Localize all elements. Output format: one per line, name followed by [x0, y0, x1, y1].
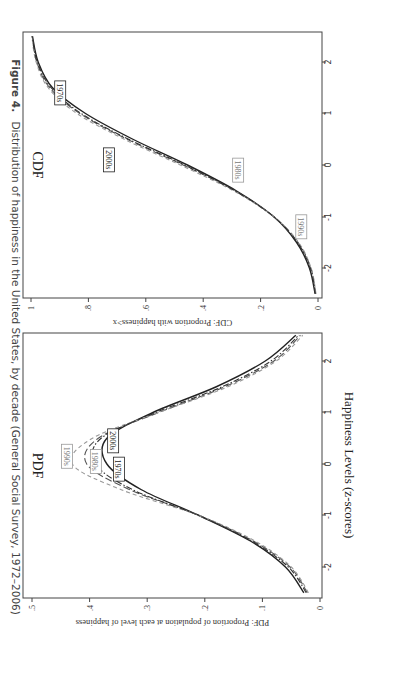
shared-x-axis-title: Happiness Levels (z-scores)	[342, 392, 357, 539]
series-label-1990s: 1990s	[62, 444, 73, 468]
series-line-2000s	[32, 36, 315, 294]
panel-title: CDF	[30, 151, 45, 178]
svg-text:1970s: 1970s	[113, 460, 122, 479]
x-tick-label: 0	[324, 162, 333, 167]
y-tick-label: .5	[28, 605, 37, 611]
y-tick-label: .4	[86, 605, 95, 611]
y-tick-label: .1	[258, 605, 267, 611]
series-label-2000s: 2000s	[108, 429, 119, 453]
y-tick-label: .2	[201, 605, 210, 611]
x-tick-label: -2	[324, 563, 333, 571]
y-axis-title: CDF: Proportion with happiness>x	[112, 318, 232, 328]
plot-frame	[23, 32, 322, 298]
svg-text:1990s: 1990s	[296, 217, 305, 236]
series-line-1970s	[32, 36, 315, 294]
series-label-1990s: 1990s	[296, 215, 307, 239]
caption-text: Distribution of happiness in the United …	[10, 122, 22, 615]
y-axis-title: PDF: Proportion of population at each le…	[76, 618, 270, 628]
series-label-1970s: 1970s	[113, 457, 124, 481]
figure-caption: Figure 4. Distribution of happiness in t…	[10, 0, 22, 674]
y-tick-label: 1	[27, 306, 36, 310]
svg-text:1970s: 1970s	[55, 83, 64, 102]
x-tick-label: 2	[324, 59, 333, 64]
x-tick-label: -2	[324, 264, 333, 272]
x-tick-label: -1	[324, 511, 333, 519]
series-label-1980s: 1980s	[90, 449, 101, 473]
svg-text:2000s: 2000s	[103, 150, 112, 169]
x-tick-label: 2	[324, 358, 333, 363]
svg-text:1980s: 1980s	[90, 452, 99, 471]
caption-label: Figure 4.	[10, 59, 22, 112]
x-tick-label: 0	[324, 461, 333, 466]
series-label-1980s: 1980s	[233, 158, 244, 182]
x-tick-label: -1	[324, 213, 333, 221]
y-tick-label: .2	[257, 305, 266, 311]
x-tick-label: 1	[324, 409, 333, 414]
svg-text:1990s: 1990s	[62, 447, 71, 466]
series-line-1980s	[32, 36, 316, 294]
figure-canvas: -2-10120.2.4.6.81CDF: Proportion with ha…	[0, 0, 397, 674]
chart-panel-cdf: -2-10120.2.4.6.81CDF: Proportion with ha…	[23, 32, 333, 328]
y-tick-label: 0	[316, 606, 325, 610]
svg-text:1980s: 1980s	[233, 161, 242, 180]
svg-text:2000s: 2000s	[108, 431, 117, 450]
series-label-1970s: 1970s	[55, 81, 66, 105]
y-tick-label: .6	[142, 305, 151, 311]
series-line-1990s	[32, 36, 316, 294]
panel-title: PDF	[30, 453, 45, 479]
y-tick-label: .4	[199, 305, 208, 311]
y-tick-label: .8	[84, 305, 93, 311]
y-tick-label: 0	[314, 306, 323, 310]
rotated-figure: -2-10120.2.4.6.81CDF: Proportion with ha…	[0, 0, 397, 674]
series-label-2000s: 2000s	[103, 148, 114, 172]
chart-panel-pdf: -2-10120.1.2.3.4.5PDF: Proportion of pop…	[23, 333, 333, 628]
y-tick-label: .3	[143, 605, 152, 611]
x-tick-label: 1	[324, 110, 333, 115]
